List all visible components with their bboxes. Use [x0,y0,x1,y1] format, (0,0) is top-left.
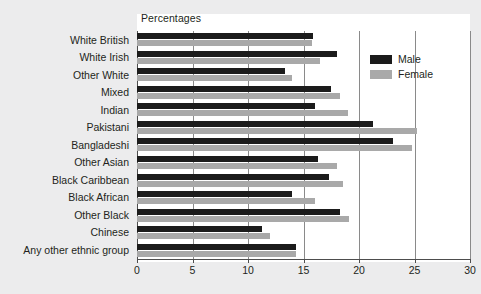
bar-male [137,121,373,127]
bar-male [137,209,340,215]
category-label: Chinese [0,224,133,242]
x-tick-mark [415,259,416,263]
bar-male [137,156,318,162]
bar-female [137,93,340,99]
bar-female [137,110,348,116]
x-tick-mark [193,259,194,263]
bar-male [137,174,329,180]
x-tick-label: 20 [353,264,365,276]
category-label: Indian [0,101,133,119]
legend-swatch-female [370,70,392,79]
bar-row [137,224,470,242]
x-tick-label: 30 [464,264,476,276]
bar-chart: Percentages White BritishWhite IrishOthe… [0,0,481,294]
bar-row [137,189,470,207]
x-tick-label: 5 [190,264,196,276]
bar-row [137,136,470,154]
bar-row [137,84,470,102]
bar-female [137,40,312,46]
bar-female [137,75,292,81]
category-label: Black Caribbean [0,171,133,189]
x-tick-label: 10 [242,264,254,276]
gridline [470,31,471,259]
bar-female [137,216,349,222]
x-tick-mark [137,259,138,263]
category-label: Bangladeshi [0,136,133,154]
category-label: White Irish [0,49,133,67]
chart-title: Percentages [141,12,201,24]
bar-female [137,163,337,169]
x-axis-ticks: 051015202530 [137,259,471,289]
x-tick-mark [470,259,471,263]
x-tick-label: 15 [298,264,310,276]
x-tick-label: 25 [409,264,421,276]
bar-female [137,181,343,187]
bar-male [137,33,313,39]
category-label: White British [0,31,133,49]
bar-female [137,198,315,204]
bar-row [137,101,470,119]
bar-male [137,86,331,92]
bar-female [137,233,270,239]
category-label: Other Asian [0,154,133,172]
bar-row [137,154,470,172]
bar-male [137,68,285,74]
bar-female [137,251,296,257]
bar-male [137,138,393,144]
category-label: Other Black [0,206,133,224]
chart-legend: MaleFemale [370,53,448,83]
legend-label: Female [398,69,433,80]
bar-female [137,58,320,64]
bar-row [137,119,470,137]
bar-row [137,206,470,224]
bar-male [137,244,296,250]
bar-row [137,171,470,189]
bar-female [137,145,412,151]
category-label: Other White [0,66,133,84]
category-label: Pakistani [0,119,133,137]
bar-male [137,103,315,109]
x-tick-mark [359,259,360,263]
category-label: Any other ethnic group [0,241,133,259]
category-label: Mixed [0,84,133,102]
bar-female [137,128,417,134]
bar-male [137,226,262,232]
category-label: Black African [0,189,133,207]
category-axis-labels: White BritishWhite IrishOther WhiteMixed… [0,31,133,259]
bar-male [137,51,337,57]
bar-row [137,31,470,49]
x-tick-mark [248,259,249,263]
bar-male [137,191,292,197]
legend-item: Female [370,68,448,81]
legend-item: Male [370,53,448,66]
bar-row [137,241,470,259]
x-tick-label: 0 [134,264,140,276]
x-tick-mark [304,259,305,263]
legend-swatch-male [370,55,392,64]
legend-label: Male [398,54,421,65]
